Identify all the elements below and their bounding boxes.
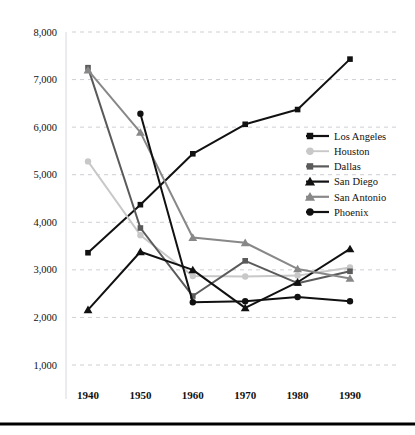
data-point-marker bbox=[242, 298, 248, 304]
data-point-marker bbox=[137, 111, 143, 117]
line-chart: 8,0007,0006,0005,0004,0003,0002,0001,000… bbox=[0, 0, 415, 435]
legend-item-dallas[interactable]: Dallas bbox=[306, 161, 361, 172]
data-point-marker bbox=[85, 250, 91, 256]
legend-item-san-antonio[interactable]: San Antonio bbox=[305, 192, 386, 203]
data-point-marker bbox=[190, 299, 196, 305]
y-tick-label: 3,000 bbox=[33, 264, 57, 275]
x-tick-label: 1980 bbox=[287, 389, 310, 401]
y-tick-label: 7,000 bbox=[33, 74, 57, 85]
y-axis-ticks-group: 8,0007,0006,0005,0004,0003,0002,0001,000 bbox=[33, 27, 57, 371]
legend-item-houston[interactable]: Houston bbox=[306, 146, 370, 157]
data-point-marker bbox=[137, 232, 143, 238]
legend-label: San Diego bbox=[334, 176, 378, 187]
chart-canvas: 8,0007,0006,0005,0004,0003,0002,0001,000… bbox=[0, 0, 415, 435]
data-point-marker bbox=[138, 202, 144, 208]
series-san-antonio bbox=[84, 66, 355, 282]
legend-label: Houston bbox=[334, 146, 370, 157]
data-point-marker bbox=[242, 273, 248, 279]
data-point-marker bbox=[347, 298, 353, 304]
legend-label: Dallas bbox=[334, 161, 361, 172]
data-point-marker bbox=[347, 268, 353, 274]
legend-label: Los Angeles bbox=[334, 131, 386, 142]
data-point-marker bbox=[190, 151, 196, 157]
legend-label: San Antonio bbox=[334, 192, 386, 203]
y-tick-label: 6,000 bbox=[33, 122, 57, 133]
legend-label: Phoenix bbox=[334, 207, 369, 218]
y-tick-label: 2,000 bbox=[33, 312, 57, 323]
x-tick-label: 1950 bbox=[129, 389, 152, 401]
legend-marker-square-icon bbox=[307, 133, 313, 139]
data-point-marker bbox=[347, 56, 353, 62]
x-tick-label: 1940 bbox=[77, 389, 100, 401]
data-point-marker bbox=[136, 248, 145, 256]
x-axis-ticks-group: 194019501960197019801990 bbox=[77, 389, 362, 401]
series-los-angeles bbox=[85, 56, 353, 255]
data-point-marker bbox=[294, 294, 300, 300]
data-point-marker bbox=[190, 273, 196, 279]
data-point-marker bbox=[346, 245, 355, 253]
y-tick-label: 8,000 bbox=[33, 27, 57, 38]
legend-marker-circle-icon bbox=[306, 148, 313, 155]
data-point-marker bbox=[242, 258, 248, 264]
legend-item-los-angeles[interactable]: Los Angeles bbox=[306, 131, 386, 142]
data-point-marker bbox=[85, 158, 91, 164]
y-tick-label: 5,000 bbox=[33, 169, 57, 180]
legend-item-phoenix[interactable]: Phoenix bbox=[306, 207, 369, 218]
legend-marker-square-icon bbox=[307, 163, 313, 169]
x-tick-label: 1970 bbox=[234, 389, 257, 401]
x-tick-label: 1960 bbox=[182, 389, 205, 401]
data-point-marker bbox=[242, 121, 248, 127]
data-point-marker bbox=[84, 66, 93, 74]
data-point-marker bbox=[294, 272, 300, 278]
y-tick-label: 1,000 bbox=[33, 360, 57, 371]
y-tick-label: 4,000 bbox=[33, 217, 57, 228]
series-line bbox=[88, 59, 350, 253]
data-point-marker bbox=[138, 225, 144, 231]
x-tick-label: 1990 bbox=[339, 389, 362, 401]
legend-item-san-diego[interactable]: San Diego bbox=[305, 176, 378, 187]
legend-marker-circle-icon bbox=[306, 208, 313, 215]
data-point-marker bbox=[295, 107, 301, 113]
